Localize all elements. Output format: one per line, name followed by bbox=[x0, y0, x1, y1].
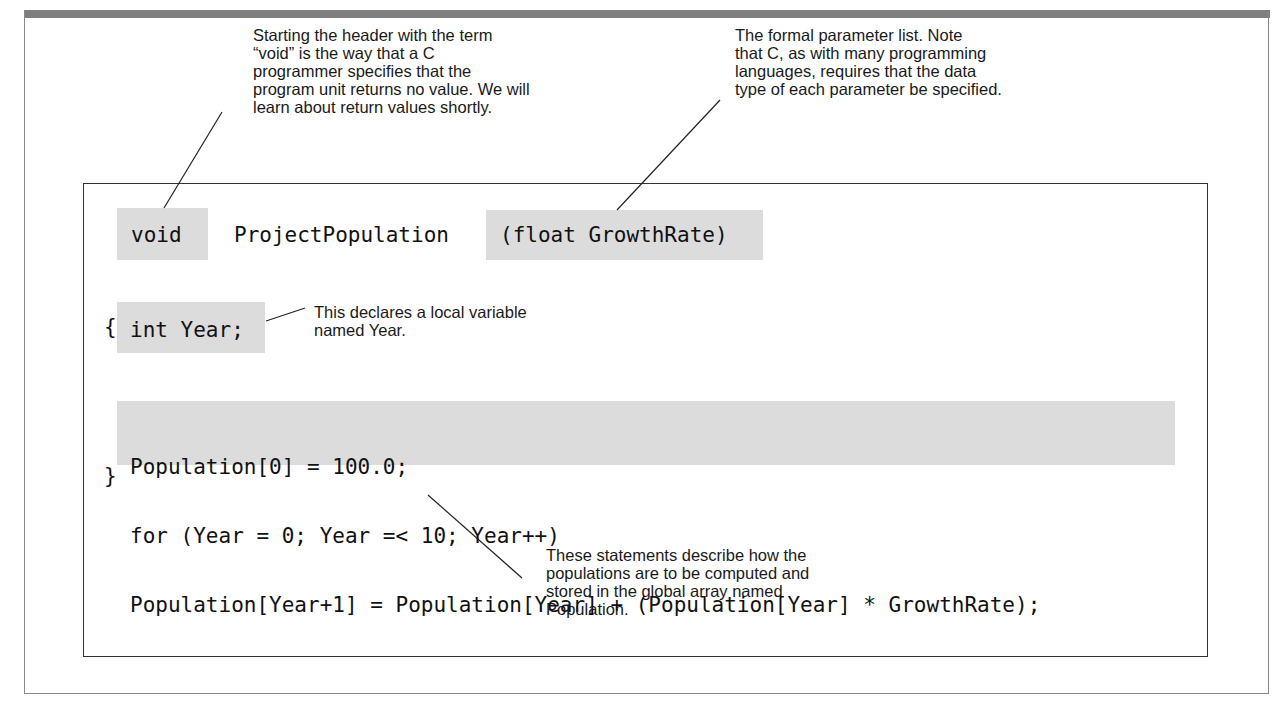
parameter-list: (float GrowthRate) bbox=[500, 223, 728, 247]
local-declaration: int Year; bbox=[130, 318, 244, 342]
local-variable-annotation: This declares a local variable named Yea… bbox=[314, 303, 527, 339]
code-line: Population[0] = 100.0; bbox=[130, 457, 1040, 478]
void-annotation: Starting the header with the term “void”… bbox=[253, 26, 530, 116]
function-name: ProjectPopulation bbox=[234, 223, 449, 247]
close-brace: } bbox=[104, 464, 117, 488]
code-line: for (Year = 0; Year =< 10; Year++) bbox=[130, 526, 1040, 547]
open-brace: { bbox=[104, 315, 117, 339]
statements-block: Population[0] = 100.0; for (Year = 0; Ye… bbox=[130, 409, 1040, 640]
code-line: Population[Year+1] = Population[Year] + … bbox=[130, 595, 1040, 616]
return-type: void bbox=[131, 223, 182, 247]
parameter-list-annotation: The formal parameter list. Note that C, … bbox=[735, 26, 1002, 98]
